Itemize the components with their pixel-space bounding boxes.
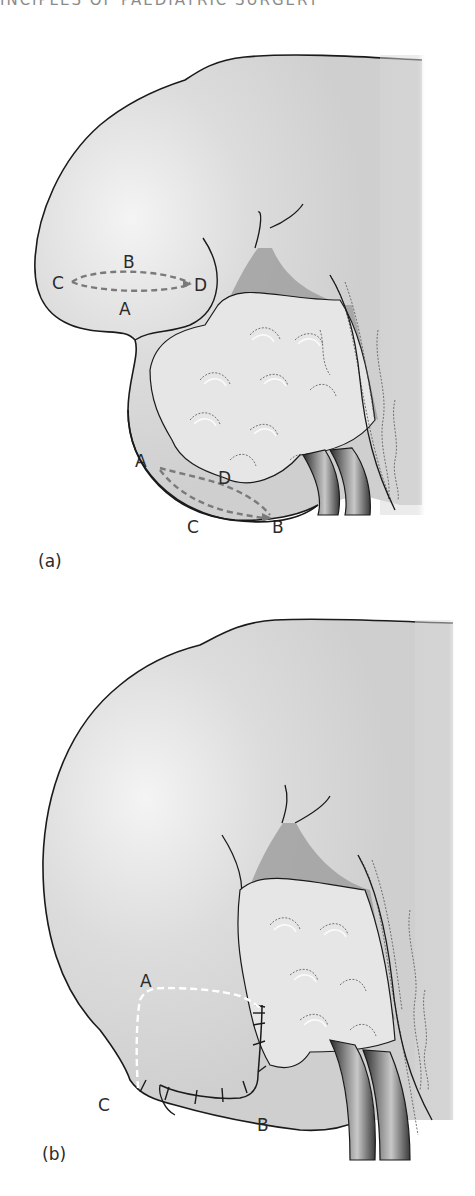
surgical-illustration: B C D A A D C B (a) [0, 0, 475, 1196]
label-b-B: B [257, 1115, 269, 1135]
label-lower-D: D [218, 468, 231, 488]
label-upper-B: B [123, 252, 135, 272]
label-b-C: C [98, 1095, 110, 1115]
label-upper-A: A [119, 299, 131, 319]
panel-a-illustration: B C D A A D C B [35, 55, 425, 537]
panel-a-label: (a) [38, 551, 62, 571]
panel-b-label: (b) [42, 1144, 66, 1164]
label-lower-C: C [187, 517, 199, 537]
panel-b-illustration: A C B [43, 619, 455, 1160]
label-upper-D: D [194, 275, 207, 295]
label-b-A: A [140, 971, 152, 991]
label-upper-C: C [52, 273, 64, 293]
